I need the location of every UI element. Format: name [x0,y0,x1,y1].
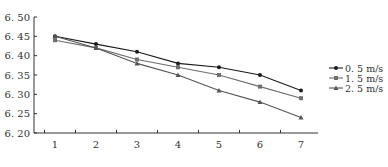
y-tick-label: 6. 25 [5,108,30,119]
x-tick-label: 2 [93,139,99,150]
circle-marker-icon [334,66,338,70]
y-tick-label: 6. 20 [5,128,30,139]
y-tick-label: 6. 30 [5,89,30,100]
square-marker-icon [176,65,180,69]
circle-marker-icon [299,88,303,92]
series-2 [53,38,303,100]
y-tick-label: 6. 45 [5,31,30,42]
circle-marker-icon [135,50,139,54]
y-tick-label: 6. 35 [5,70,30,81]
legend-item-3: 2. 5 m/s [329,83,383,94]
x-tick-label: 6 [257,139,263,150]
legend: 0. 5 m/s1. 5 m/s2. 5 m/s [329,63,383,94]
circle-marker-icon [258,73,262,77]
square-marker-icon [299,96,303,100]
x-tick-label: 3 [134,139,140,150]
y-tick-label: 6. 50 [5,12,30,23]
x-tick-label: 5 [216,139,222,150]
square-marker-icon [217,73,221,77]
square-marker-icon [258,85,262,89]
x-tick-label: 1 [52,139,58,150]
line-chart: 6. 206. 256. 306. 356. 406. 456. 50 1234… [0,0,388,167]
series-1 [53,34,303,92]
y-axis-ticks: 6. 206. 256. 306. 356. 406. 456. 50 [5,12,37,139]
square-marker-icon [334,76,338,80]
legend-label: 2. 5 m/s [345,83,383,94]
y-tick-label: 6. 40 [5,50,30,61]
circle-marker-icon [217,65,221,69]
circle-marker-icon [176,61,180,65]
x-tick-label: 7 [298,139,304,150]
series-lines [53,34,304,120]
square-marker-icon [53,38,57,42]
x-tick-label: 4 [175,139,181,150]
